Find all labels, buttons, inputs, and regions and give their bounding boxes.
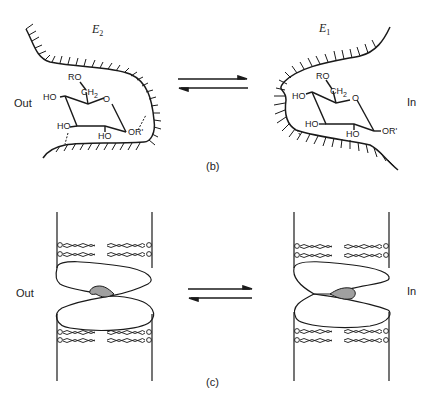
- chem-or-left: OR': [128, 128, 143, 137]
- chem-ro-left: RO: [68, 73, 82, 82]
- chem-or-right: OR': [382, 127, 397, 136]
- chem-ringo-right: O: [352, 94, 359, 103]
- ligand-left: [90, 286, 114, 297]
- enzyme-label-e1: E1: [319, 21, 330, 37]
- chem-ho1-left: HO: [43, 93, 57, 102]
- chem-ro-right: RO: [316, 72, 330, 81]
- side-label-out-c: Out: [16, 287, 34, 299]
- equilibrium-arrows-b: [178, 76, 248, 91]
- caption-c: (c): [206, 376, 219, 388]
- side-label-out-b: Out: [14, 97, 32, 109]
- chem-ho1-right: HO: [292, 92, 306, 101]
- chem-ringo-left: O: [103, 95, 110, 104]
- side-label-in-c: In: [407, 285, 416, 297]
- chem-ch2-right: CH2: [330, 87, 347, 98]
- diagram-canvas: [0, 0, 432, 398]
- equilibrium-arrows-c: [188, 286, 252, 301]
- chem-ho2-left: HO: [57, 122, 71, 131]
- chem-ho3-left: HO: [98, 132, 112, 141]
- side-label-in-b: In: [407, 96, 416, 108]
- chem-ho2-right: HO: [305, 120, 319, 129]
- chem-ho3-right: HO: [346, 130, 360, 139]
- caption-b: (b): [206, 160, 219, 172]
- enzyme-label-e2: E2: [92, 22, 103, 38]
- chem-ch2-left: CH2: [81, 88, 98, 99]
